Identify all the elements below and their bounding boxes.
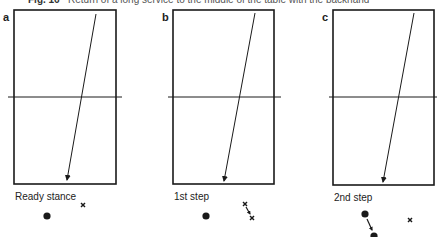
player-position-dot [361,210,368,217]
step-label: Ready stance [15,191,76,202]
panel-letter-a: a [3,11,9,23]
foot-mark-icon [243,202,247,206]
panel-a [8,10,122,220]
foot-mark-icon [250,216,254,220]
player-position-dot [202,212,209,219]
player-position-dot [370,232,377,237]
panel-b [168,10,281,220]
player-position-dot [43,212,50,219]
foot-mark-icon [408,218,412,222]
movement-arrow [367,219,372,230]
step-label: 2nd step [334,192,372,203]
panel-letter-b: b [162,11,169,23]
panel-letter-c: c [322,11,328,23]
movement-arrow [246,207,250,214]
foot-mark-icon [81,203,85,207]
step-label: 1st step [174,191,209,202]
